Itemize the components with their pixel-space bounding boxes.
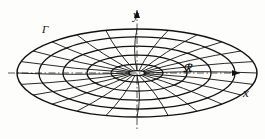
radial-line [21,62,129,73]
y-axis-label: y [133,8,139,21]
figure-canvas: y x Г ℛ [0,0,265,139]
radial-line [33,74,130,95]
boundary-curve-label: Г [42,24,48,35]
x-axis-arrow [232,70,240,76]
radial-line [145,74,253,85]
x-axis-label: x [243,86,249,99]
region-label: ℛ [183,63,192,74]
radial-line [144,51,241,72]
